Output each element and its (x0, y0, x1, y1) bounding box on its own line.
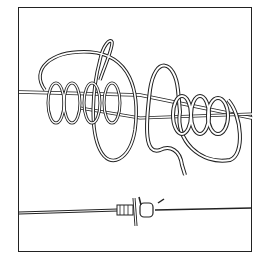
upper-panel (19, 41, 252, 175)
knot-illustration (0, 0, 265, 268)
lower-panel (19, 197, 252, 226)
